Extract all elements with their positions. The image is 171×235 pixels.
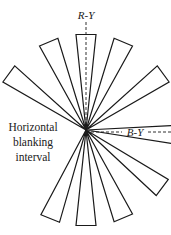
- b-y-label: B-Y: [127, 126, 145, 138]
- r-y-label: R-Y: [77, 9, 96, 21]
- blanking-label-line1: Horizontal: [8, 121, 57, 133]
- blanking-label-line2: blanking: [13, 136, 53, 149]
- vector-diagram: R-Y B-Y Horizontal blanking interval: [0, 0, 171, 235]
- blanking-label-line3: interval: [15, 151, 50, 163]
